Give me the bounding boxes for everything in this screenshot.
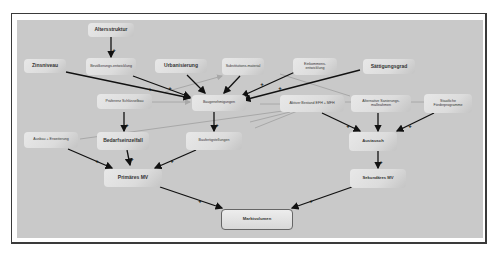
node-einkommensentwicklung[interactable]: Einkommens-entwicklung bbox=[293, 58, 337, 75]
edge-sign: + bbox=[379, 159, 383, 165]
edge-foerder-austausch bbox=[397, 113, 434, 131]
edge-sign: + bbox=[408, 123, 412, 129]
node-urbanisierung[interactable]: Urbanisierung bbox=[155, 59, 207, 73]
edge-ausbau-primaer bbox=[68, 149, 112, 168]
edge-sign: + bbox=[260, 81, 264, 87]
node-zinsniveau[interactable]: Zinsniveau bbox=[24, 59, 66, 73]
edge-bestand-austausch bbox=[322, 113, 360, 131]
edge-primaer-marktvolumen bbox=[160, 187, 222, 208]
edge-sekundaer-marktvolumen bbox=[292, 187, 352, 208]
edge-sign: + bbox=[170, 158, 174, 164]
edge-einkommen-baugenehmigungen bbox=[242, 72, 295, 96]
edge-urbanisierung-baugenehmigungen bbox=[187, 75, 205, 93]
edge-sign: + bbox=[168, 85, 172, 91]
node-sekundaeres-mv[interactable]: Sekundäres MV bbox=[350, 169, 406, 188]
node-bedarfseinzelfall[interactable]: Bedarfseinzelfall bbox=[97, 132, 149, 150]
edge-light bbox=[165, 76, 222, 92]
node-altersstruktur[interactable]: Altersstruktur bbox=[88, 23, 134, 37]
edge-sign: + bbox=[95, 158, 99, 164]
edge-sign: + bbox=[215, 122, 219, 128]
node-bevoelkerungsentwicklung[interactable]: Bevölkerungs-entwicklung bbox=[86, 58, 136, 75]
node-aktiver-bestand[interactable]: Aktiver Bestand EFH + MFH bbox=[280, 95, 344, 112]
node-baugenehmigungen[interactable]: Baugenehmigungen bbox=[192, 95, 246, 111]
node-substitutionsmaterial[interactable]: Substitutions-material bbox=[222, 58, 264, 75]
edge-sign: + bbox=[125, 122, 129, 128]
node-primaeres-mv[interactable]: Primäres MV bbox=[104, 169, 162, 187]
node-baufertigstellungen[interactable]: Baufertigstellungen bbox=[186, 132, 242, 150]
node-austausch[interactable]: Austausch bbox=[349, 132, 397, 151]
node-alternative-sanierungsmassnahmen[interactable]: Alternative Sanierungs-maßnahmen bbox=[351, 95, 411, 112]
edge-substitution-baugenehmigungen bbox=[224, 76, 240, 93]
edge-sign: + bbox=[278, 85, 282, 91]
edge-light bbox=[250, 112, 290, 122]
edge-baufertig-primaer bbox=[155, 150, 196, 168]
edge-sign: + bbox=[130, 156, 134, 162]
edge-sign: + bbox=[112, 47, 116, 53]
edge-sign: + bbox=[309, 198, 313, 204]
edge-sign: + bbox=[346, 123, 350, 129]
edge-sign: + bbox=[148, 86, 152, 92]
node-marktvolumen[interactable]: Marktvolumen bbox=[221, 209, 293, 230]
node-praeferenz-schluesselbau[interactable]: Präferenz Schlüsselbau bbox=[97, 94, 152, 109]
edge-light bbox=[280, 74, 350, 96]
edge-sign: + bbox=[198, 198, 202, 204]
node-saettigungsgrad[interactable]: Sättigungsgrad bbox=[363, 59, 415, 74]
node-staatliche-foerderprogramme[interactable]: Staatliche Förderprogramme bbox=[424, 94, 472, 113]
node-ausbau-erweiterung[interactable]: Ausbau + Erweiterung bbox=[24, 132, 78, 148]
